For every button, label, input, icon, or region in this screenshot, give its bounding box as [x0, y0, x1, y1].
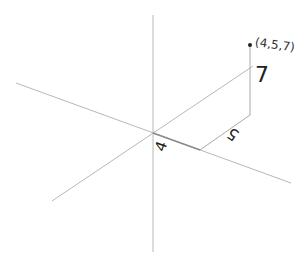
y-guide-segment — [200, 115, 250, 150]
point-marker — [248, 43, 252, 47]
z-length-label: 7 — [255, 64, 269, 86]
